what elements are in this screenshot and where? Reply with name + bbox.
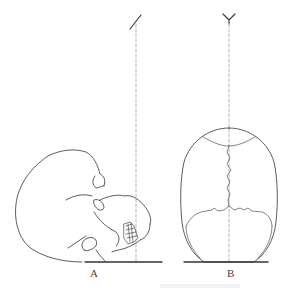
orbit [94, 199, 104, 210]
panel-label-a: A [90, 268, 98, 279]
left-zygomatic-contour [186, 226, 200, 258]
nasal-maxilla [100, 195, 151, 224]
occipital-detail [68, 236, 86, 248]
plumb-marker-slash [130, 15, 141, 29]
zygomatic-arch [94, 212, 119, 246]
plumb-marker-y [223, 14, 235, 24]
right-zygomatic-contour [258, 226, 272, 258]
brow-ridge [93, 176, 104, 188]
panel-a [16, 15, 163, 262]
panel-b [181, 14, 278, 262]
temporal-line [66, 195, 92, 200]
panel-label-b: B [227, 268, 234, 279]
mastoid-process [82, 237, 97, 250]
skull-diagram [0, 0, 290, 291]
faint-watermark [160, 284, 240, 288]
cranium-outline [16, 150, 105, 262]
jaw-angle [96, 250, 106, 262]
face-lower [112, 224, 150, 252]
